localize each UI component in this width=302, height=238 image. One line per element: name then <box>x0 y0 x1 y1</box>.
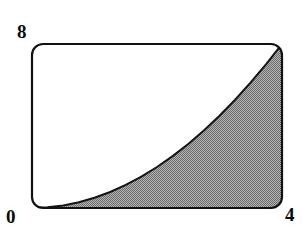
plot-svg <box>0 0 302 238</box>
origin-label: 0 <box>6 207 16 226</box>
y-axis-max-label: 8 <box>17 22 27 41</box>
area-under-curve-figure: 8 0 4 <box>0 0 302 238</box>
x-axis-max-label: 4 <box>285 205 295 224</box>
